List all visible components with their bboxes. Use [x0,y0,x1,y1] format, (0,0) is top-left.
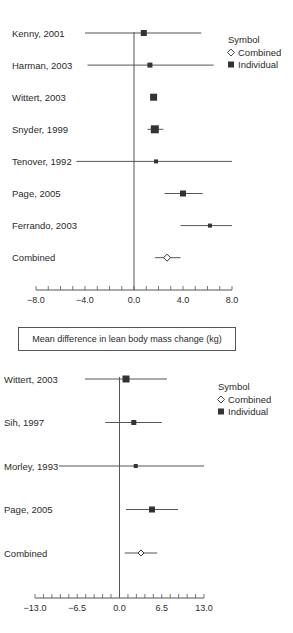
square-marker-icon [154,159,158,163]
forest-plots: −8.0−4.00.04.08.0Kenny, 2001Harman, 2003… [0,0,293,633]
x-tick-label: −8.0 [27,295,45,305]
study-label: Wittert, 2003 [12,92,66,103]
legend: SymbolCombinedIndividual [218,381,272,417]
study-label: Ferrando, 2003 [12,220,77,231]
study-row: Ferrando, 2003 [12,220,232,231]
legend-title: Symbol [218,381,250,392]
x-tick-label: 13.0 [195,603,213,613]
combined-row: Combined [12,252,181,263]
study-label: Snyder, 1999 [12,124,68,135]
combined-row: Combined [4,548,157,559]
x-axis-label-box: Mean difference in lean body mass change… [18,327,236,351]
study-label: Harman, 2003 [12,60,72,71]
x-tick-label: −6.5 [68,603,86,613]
x-tick-label: 8.0 [226,295,239,305]
study-label: Page, 2005 [4,504,53,515]
square-marker-icon [180,191,186,197]
study-label: Combined [4,548,47,559]
study-row: Wittert, 2003 [4,374,167,385]
square-marker-icon [141,30,147,36]
study-label: Kenny, 2001 [12,28,65,39]
x-tick-label: 0.0 [128,295,141,305]
square-marker-icon [131,420,136,425]
study-row: Kenny, 2001 [12,28,201,39]
study-row: Page, 2005 [12,188,203,199]
legend-entry: Combined [228,394,271,405]
study-label: Page, 2005 [12,188,61,199]
x-tick-label: 0.0 [113,603,126,613]
square-marker-icon [150,94,157,101]
legend-entry: Individual [228,406,268,417]
study-row: Morley, 1993 [4,461,204,472]
legend-title: Symbol [228,34,260,45]
study-row: Wittert, 2003 [12,92,157,103]
legend-entry: Combined [238,47,281,58]
forest-plot-2: −13.0−6.50.06.513.0Wittert, 2003Sih, 199… [4,374,271,614]
study-row: Sih, 1997 [4,417,162,428]
square-marker-icon [151,125,159,133]
forest-plot-1: −8.0−4.00.04.08.0Kenny, 2001Harman, 2003… [12,28,281,306]
x-tick-label: 4.0 [177,295,190,305]
square-legend-icon [228,62,234,68]
study-label: Wittert, 2003 [4,374,58,385]
diamond-legend-icon [218,396,225,403]
study-label: Morley, 1993 [4,461,58,472]
study-label: Combined [12,252,55,263]
study-row: Snyder, 1999 [12,124,163,135]
x-axis-label: Mean difference in lean body mass change… [32,334,221,344]
x-tick-label: −4.0 [76,295,94,305]
square-marker-icon [147,63,152,68]
diamond-marker-icon [138,550,144,556]
square-marker-icon [208,224,212,228]
legend: SymbolCombinedIndividual [228,34,282,70]
square-legend-icon [218,409,224,415]
study-label: Tenover, 1992 [12,156,72,167]
square-marker-icon [149,507,155,513]
square-marker-icon [134,464,138,468]
square-marker-icon [123,376,130,383]
diamond-marker-icon [164,254,171,261]
study-row: Tenover, 1992 [12,156,232,167]
study-row: Harman, 2003 [12,60,214,71]
x-tick-label: 6.5 [155,603,168,613]
study-row: Page, 2005 [4,504,178,515]
study-label: Sih, 1997 [4,417,44,428]
x-tick-label: −13.0 [24,603,47,613]
legend-entry: Individual [238,59,278,70]
diamond-legend-icon [228,49,235,56]
